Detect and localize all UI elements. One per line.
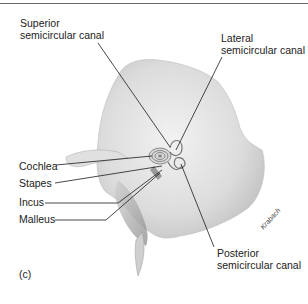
label-incus: Incus: [19, 196, 44, 208]
label-lateral-semicircular-canal: Lateral semicircular canal: [221, 32, 305, 56]
label-line: semicircular canal: [217, 259, 301, 271]
label-line: Posterior: [217, 247, 301, 259]
label-posterior-semicircular-canal: Posterior semicircular canal: [217, 247, 301, 271]
cochlea-structure: [149, 148, 171, 164]
label-stapes: Stapes: [19, 177, 52, 189]
label-superior-semicircular-canal: Superior semicircular canal: [20, 17, 104, 41]
label-malleus: Malleus: [19, 213, 55, 225]
label-line: Lateral: [221, 32, 305, 44]
panel-label: (c): [19, 268, 31, 280]
label-line: semicircular canal: [20, 29, 104, 41]
label-line: semicircular canal: [221, 44, 305, 56]
label-line: Superior: [20, 17, 104, 29]
label-cochlea: Cochlea: [19, 160, 58, 172]
